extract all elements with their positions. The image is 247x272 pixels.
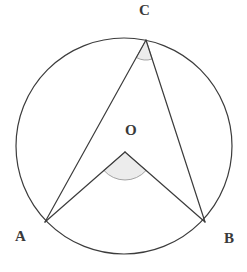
central-angle-marker-aob [104, 152, 146, 180]
segment-bo [125, 152, 205, 222]
geometry-diagram: A B C O [0, 0, 247, 272]
segment-ao [45, 152, 125, 222]
vertex-label-c: C [139, 3, 150, 18]
vertex-label-b: B [224, 231, 234, 246]
circle-outline [16, 38, 232, 254]
segment-bc [146, 40, 205, 222]
vertex-label-o: O [125, 123, 137, 138]
vertex-label-a: A [15, 229, 26, 244]
geometry-canvas [0, 0, 247, 272]
